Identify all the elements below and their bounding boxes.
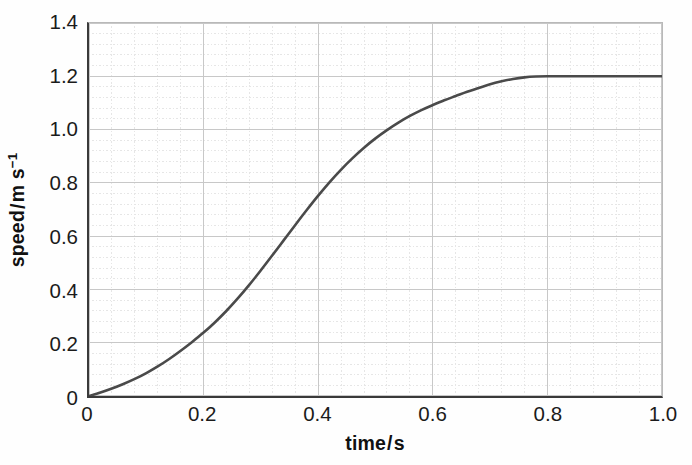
y-tick-label: 0.6 <box>16 227 78 248</box>
x-tick-label: 0.8 <box>503 404 593 425</box>
x-tick-label: 0 <box>42 404 132 425</box>
x-axis-slash: / <box>386 432 394 454</box>
x-axis-unit: s <box>394 432 405 454</box>
y-tick-label: 0.4 <box>16 280 78 301</box>
y-tick-label: 0.8 <box>16 173 78 194</box>
y-tick-label: 0.2 <box>16 334 78 355</box>
x-tick-label: 1.0 <box>618 404 692 425</box>
y-tick-label: 1.4 <box>16 12 78 33</box>
x-tick-label: 0.2 <box>157 404 247 425</box>
x-axis-title: time/s <box>87 432 663 455</box>
speed-curve <box>89 76 662 396</box>
data-curve-layer <box>89 23 662 396</box>
x-tick-label: 0.4 <box>272 404 362 425</box>
y-tick-label: 1.2 <box>16 65 78 86</box>
plot-area <box>87 22 663 398</box>
y-axis-tick-labels: 00.20.40.60.81.01.21.4 <box>8 22 78 398</box>
x-axis-quantity: time <box>345 432 386 454</box>
y-tick-label: 1.0 <box>16 119 78 140</box>
speed-time-chart: speed/m s−1 00.20.40.60.81.01.21.4 00.20… <box>0 0 692 465</box>
x-tick-label: 0.6 <box>388 404 478 425</box>
x-axis-tick-labels: 00.20.40.60.81.0 <box>87 404 663 434</box>
